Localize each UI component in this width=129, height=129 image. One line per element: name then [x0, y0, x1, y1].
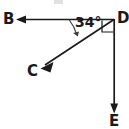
diagram-canvas [0, 0, 129, 129]
vertex-label-b: B [3, 12, 14, 27]
arrowhead-left-icon [16, 16, 26, 24]
angle-measure-label-bdc: 34° [75, 15, 101, 29]
ray-DE [110, 19, 118, 114]
vertex-label-e: E [109, 114, 119, 129]
vertex-label-c: C [27, 64, 38, 79]
geometry-diagram: B C D E 34° [0, 0, 129, 129]
vertex-label-d: D [117, 11, 129, 26]
cropped-edge-artifact [54, 0, 63, 4]
